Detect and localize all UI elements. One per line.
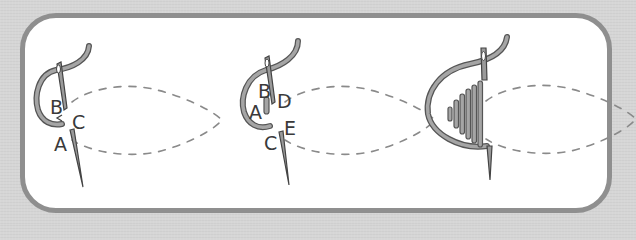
label-d: D [277, 90, 292, 112]
needle-3-bottom [487, 146, 492, 180]
needle-3-top [481, 48, 487, 80]
label-e: E [284, 117, 296, 139]
step-2-figure: B A D E C [243, 41, 435, 185]
label-a: A [54, 133, 67, 155]
label-b: B [50, 96, 63, 118]
step-3-figure [428, 37, 636, 180]
label-a: A [249, 101, 262, 123]
label-c: C [72, 111, 85, 133]
step-1-figure: B C A [37, 46, 222, 187]
stitch-diagram: B C A B A D E C [0, 0, 636, 224]
leaf-outline-1 [72, 86, 222, 154]
satin-fill-stitches [448, 81, 483, 147]
leaf-outline-3 [486, 85, 636, 153]
needle-2-bottom [279, 131, 289, 185]
label-b: B [258, 80, 271, 102]
leaf-outline-2 [285, 86, 435, 154]
needle-1-bottom [70, 129, 83, 187]
label-c: C [264, 132, 277, 154]
